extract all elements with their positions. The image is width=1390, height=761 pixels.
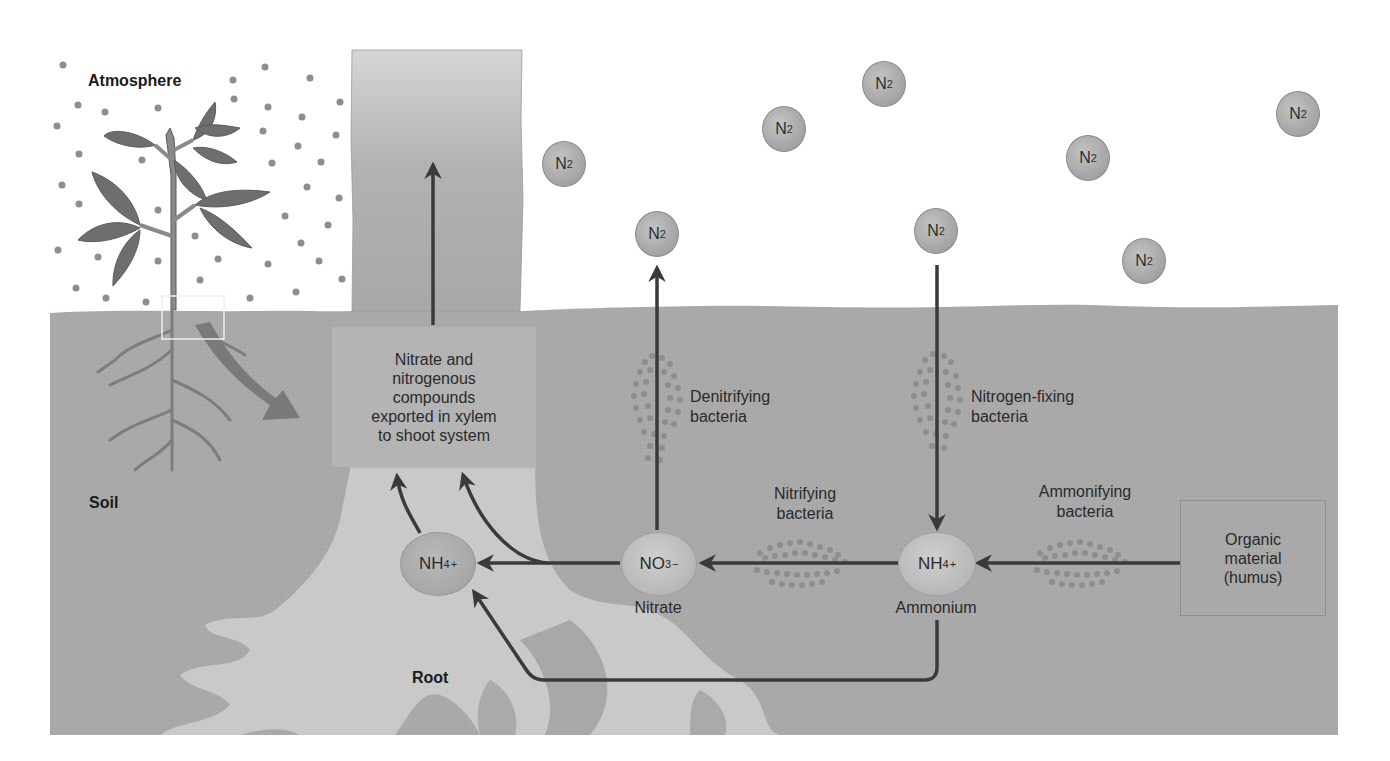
n2-molecule-denitrified: N2 [635, 211, 679, 257]
molecule-subscript: 2 [787, 123, 793, 135]
soil-label: Soil [89, 493, 118, 513]
nitrifying-bacteria-label: Nitrifying bacteria [750, 484, 860, 524]
label-line: Nitrifying [750, 484, 860, 504]
label-line: bacteria [690, 407, 770, 427]
label-line: bacteria [750, 504, 860, 524]
ion-symbol: NH [918, 554, 943, 574]
xylem-box-line: nitrogenous [371, 369, 496, 388]
denitrifying-bacteria-label: Denitrifying bacteria [690, 387, 770, 427]
molecule-subscript: 2 [1301, 108, 1307, 120]
ion-symbol: NO [639, 554, 665, 574]
n2-molecule: N2 [862, 61, 906, 107]
label-line: Denitrifying [690, 387, 770, 407]
ion-subscript: 4 [444, 558, 450, 570]
label-line: Ammonifying [1020, 482, 1150, 502]
ion-charge: + [950, 558, 956, 570]
xylem-box-line: compounds [371, 388, 496, 407]
n2-molecule-fixed: N2 [914, 208, 958, 254]
ion-symbol: NH [419, 554, 444, 574]
molecule-symbol: N [648, 225, 660, 243]
molecule-symbol: N [875, 75, 887, 93]
molecule-symbol: N [1135, 252, 1147, 270]
root-ammonium-ion: NH4+ [400, 532, 476, 596]
xylem-box-line: Nitrate and [371, 350, 496, 369]
molecule-subscript: 2 [660, 228, 666, 240]
label-line: bacteria [1020, 502, 1150, 522]
ammonifying-bacteria-label: Ammonifying bacteria [1020, 482, 1150, 522]
root-label: Root [412, 668, 448, 688]
label-line: bacteria [971, 407, 1074, 427]
molecule-symbol: N [927, 222, 939, 240]
nitrate-ion: NO3− [621, 532, 697, 596]
plant-shoot [78, 102, 270, 310]
ion-subscript: 3 [665, 558, 671, 570]
molecule-subscript: 2 [567, 158, 573, 170]
molecule-symbol: N [1079, 149, 1091, 167]
n2-molecule: N2 [1066, 135, 1110, 181]
molecule-symbol: N [775, 120, 787, 138]
n2-molecule: N2 [1122, 238, 1166, 284]
soil-ammonium-ion: NH4+ [898, 532, 976, 596]
label-line: Nitrogen-fixing [971, 387, 1074, 407]
humus-box-line: (humus) [1224, 568, 1283, 587]
molecule-subscript: 2 [1091, 152, 1097, 164]
xylem-box-line: to shoot system [371, 426, 496, 445]
humus-box-line: material [1224, 549, 1283, 568]
ion-subscript: 4 [943, 558, 949, 570]
ion-charge: − [672, 558, 678, 570]
molecule-symbol: N [1289, 105, 1301, 123]
n2-molecule: N2 [1276, 91, 1320, 137]
n2-molecule: N2 [762, 106, 806, 152]
xylem-export-box: Nitrate and nitrogenous compounds export… [332, 327, 536, 467]
molecule-subscript: 2 [887, 78, 893, 90]
nitrate-caption: Nitrate [612, 598, 704, 618]
organic-material-box: Organic material (humus) [1180, 500, 1326, 616]
xylem-box-line: exported in xylem [371, 407, 496, 426]
humus-box-line: Organic [1224, 530, 1283, 549]
n2-molecule: N2 [542, 141, 586, 187]
diagram-artwork [0, 0, 1390, 761]
molecule-symbol: N [555, 155, 567, 173]
molecule-subscript: 2 [1147, 255, 1153, 267]
ammonium-caption: Ammonium [876, 598, 996, 618]
nitrogen-fixing-bacteria-label: Nitrogen-fixing bacteria [971, 387, 1074, 427]
ion-charge: + [451, 558, 457, 570]
molecule-subscript: 2 [939, 225, 945, 237]
atmosphere-label: Atmosphere [88, 71, 181, 91]
